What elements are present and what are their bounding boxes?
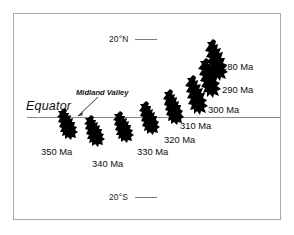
age-label-310ma: 310 Ma xyxy=(180,120,211,131)
landmass-340ma xyxy=(82,114,108,148)
landmass-330ma xyxy=(111,110,137,144)
latitude-marker-north: 20°N xyxy=(109,34,157,44)
age-label-300ma: 300 Ma xyxy=(208,104,239,115)
figure-canvas: 20°N 20°S Equator Midland Valley xyxy=(0,0,294,235)
latitude-marker-south: 20°S xyxy=(109,192,157,202)
landmass-280ma xyxy=(203,38,231,82)
latitude-label-north: 20°N xyxy=(109,34,128,44)
age-label-320ma: 320 Ma xyxy=(164,134,195,145)
midland-valley-annotation-label: Midland Valley xyxy=(76,88,128,97)
age-label-330ma: 330 Ma xyxy=(137,146,168,157)
age-label-280ma: 280 Ma xyxy=(222,61,253,72)
age-label-350ma: 350 Ma xyxy=(41,146,72,157)
latitude-dash-south xyxy=(135,197,157,198)
landmass-320ma xyxy=(137,100,163,136)
age-label-340ma: 340 Ma xyxy=(92,158,123,169)
age-label-290ma: 290 Ma xyxy=(222,84,253,95)
landmass-350ma xyxy=(55,107,81,141)
latitude-dash-north xyxy=(135,39,157,40)
latitude-label-south: 20°S xyxy=(109,192,128,202)
